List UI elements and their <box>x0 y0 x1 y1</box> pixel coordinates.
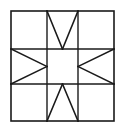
quilt-block-svg <box>0 0 124 130</box>
quilt-block-figure <box>0 0 124 130</box>
block-background <box>11 11 114 121</box>
